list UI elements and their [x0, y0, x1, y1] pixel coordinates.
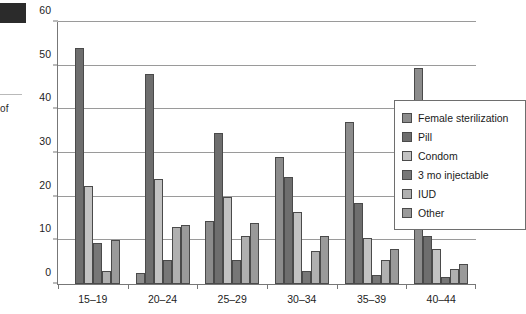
bar-chart: 0102030405060 15–1920–2425–2930–3435–394…	[24, 10, 510, 310]
y-axis-label-fragment: of	[0, 103, 22, 114]
bar	[311, 251, 320, 284]
bar	[441, 277, 450, 284]
scan-artifact-black-box	[0, 3, 26, 23]
legend-swatch-icon	[402, 208, 412, 218]
x-axis-tick-mark	[58, 284, 59, 289]
y-axis-tick-label: 0	[45, 266, 51, 278]
legend-swatch-icon	[402, 189, 412, 199]
legend-item-label: Condom	[418, 150, 458, 162]
bar	[423, 236, 432, 284]
legend-item-label: IUD	[418, 188, 436, 200]
bar	[163, 260, 172, 284]
x-axis-tick-label: 30–34	[287, 293, 316, 305]
legend-item-label: Other	[418, 207, 444, 219]
legend-item: Other	[402, 203, 517, 222]
bar	[111, 240, 120, 284]
legend-swatch-icon	[402, 151, 412, 161]
legend-item: Female sterilization	[402, 108, 517, 127]
x-axis-tick-label: 40–44	[427, 293, 456, 305]
bar	[320, 236, 329, 284]
legend-item: Condom	[402, 146, 517, 165]
bar	[205, 221, 214, 284]
y-axis-tick-label: 20	[39, 179, 51, 191]
bar	[102, 271, 111, 284]
bar	[84, 186, 93, 284]
y-axis-tick-label: 50	[39, 48, 51, 60]
y-axis-tick-label: 40	[39, 91, 51, 103]
scan-artifact-rule	[0, 94, 22, 95]
bar-group: 15–19	[58, 22, 128, 284]
x-axis-tick-mark	[128, 284, 129, 289]
x-axis-tick-mark	[197, 284, 198, 289]
x-axis-tick-mark	[267, 284, 268, 289]
bar	[293, 212, 302, 284]
legend-item-label: 3 mo injectable	[418, 169, 489, 181]
x-axis-tick-label: 25–29	[218, 293, 247, 305]
y-axis-tick-label: 10	[39, 222, 51, 234]
bar	[302, 271, 311, 284]
legend-swatch-icon	[402, 170, 412, 180]
x-axis-tick-mark	[406, 284, 407, 289]
x-axis-tick-label: 15–19	[78, 293, 107, 305]
bar	[214, 133, 223, 284]
legend-item: IUD	[402, 184, 517, 203]
bar	[459, 264, 468, 284]
x-axis-tick-mark	[475, 284, 476, 289]
bar	[241, 236, 250, 284]
bar	[345, 122, 354, 284]
legend-item: Pill	[402, 127, 517, 146]
bar	[154, 179, 163, 284]
bar	[75, 48, 84, 284]
bar	[232, 260, 241, 284]
bar	[275, 157, 284, 284]
bar	[390, 249, 399, 284]
bar	[93, 243, 102, 284]
bar	[381, 260, 390, 284]
y-axis-tick-label: 30	[39, 135, 51, 147]
legend-swatch-icon	[402, 113, 412, 123]
bar	[145, 74, 154, 284]
bar	[432, 249, 441, 284]
bar-group: 30–34	[267, 22, 337, 284]
bar	[250, 223, 259, 284]
bar	[372, 275, 381, 284]
bar	[181, 225, 190, 284]
bar	[172, 227, 181, 284]
legend-item-label: Female sterilization	[418, 112, 508, 124]
bar	[354, 203, 363, 284]
y-axis-tick-label: 60	[39, 4, 51, 16]
x-axis-tick-label: 20–24	[148, 293, 177, 305]
bar-group: 20–24	[128, 22, 198, 284]
legend-swatch-icon	[402, 132, 412, 142]
bar	[363, 238, 372, 284]
x-axis-tick-mark	[337, 284, 338, 289]
bar	[450, 269, 459, 284]
legend-item-label: Pill	[418, 131, 432, 143]
x-axis-tick-label: 35–39	[357, 293, 386, 305]
chart-legend: Female sterilizationPillCondom3 mo injec…	[394, 100, 526, 230]
bar	[284, 177, 293, 284]
bar-group: 25–29	[197, 22, 267, 284]
bar	[136, 273, 145, 284]
legend-item: 3 mo injectable	[402, 165, 517, 184]
bar	[223, 197, 232, 284]
